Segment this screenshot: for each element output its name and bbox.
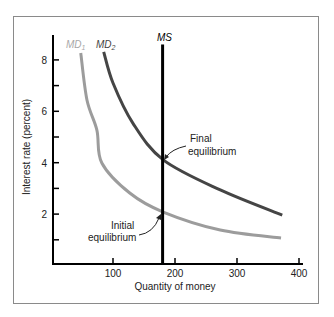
- md1-label: MD1: [66, 39, 86, 51]
- y-tick-label: 4: [41, 158, 47, 169]
- initial-equilibrium-arrow: [139, 218, 159, 235]
- initial-equilibrium-annotation: Initial equilibrium: [88, 214, 161, 243]
- y-axis-title: Interest rate (percent): [21, 99, 32, 195]
- final-equilibrium-label-line1: Final: [190, 133, 212, 144]
- x-tick-label: 100: [105, 268, 122, 279]
- final-equilibrium-arrow: [166, 146, 186, 157]
- x-ticks: 100200300400: [105, 258, 308, 279]
- x-tick-label: 400: [291, 268, 308, 279]
- axes: [52, 35, 303, 265]
- final-equilibrium-label-line2: equilibrium: [188, 146, 236, 157]
- md2-label: MD2: [96, 39, 116, 51]
- x-tick-label: 300: [229, 268, 246, 279]
- y-tick-label: 2: [41, 209, 47, 220]
- money-market-chart: 2468 100200300400 MD1 MD2 MS Final equil…: [0, 0, 334, 317]
- initial-equilibrium-label-line1: Initial: [111, 220, 134, 231]
- final-equilibrium-annotation: Final equilibrium: [164, 133, 236, 160]
- y-tick-label: 6: [41, 106, 47, 117]
- ms-label: MS: [157, 32, 172, 43]
- y-ticks: 2468: [41, 55, 59, 240]
- x-axis-title: Quantity of money: [134, 281, 215, 292]
- x-tick-label: 200: [167, 268, 184, 279]
- initial-equilibrium-label-line2: equilibrium: [88, 232, 136, 243]
- y-tick-label: 8: [41, 55, 47, 66]
